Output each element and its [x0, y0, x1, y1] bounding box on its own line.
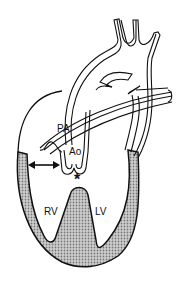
label-asterisk: *	[74, 172, 80, 188]
label-lv: LV	[95, 207, 107, 217]
label-rv: RV	[44, 207, 58, 217]
left-ventricle-wall	[125, 95, 133, 150]
crossing-vessel	[100, 72, 132, 87]
right-atrium-outline	[18, 91, 62, 156]
double-headed-arrow	[28, 161, 60, 169]
ventricular-myocardium	[17, 150, 138, 267]
aortic-arch-inner	[71, 20, 156, 156]
label-pa: PA	[57, 124, 70, 134]
heart-diagram: PA Ao * RV LV	[0, 0, 182, 284]
heart-drawing	[0, 0, 182, 284]
aortic-root-inner	[64, 112, 86, 169]
crossing-vessel-join	[96, 86, 112, 90]
label-ao: Ao	[69, 147, 81, 157]
